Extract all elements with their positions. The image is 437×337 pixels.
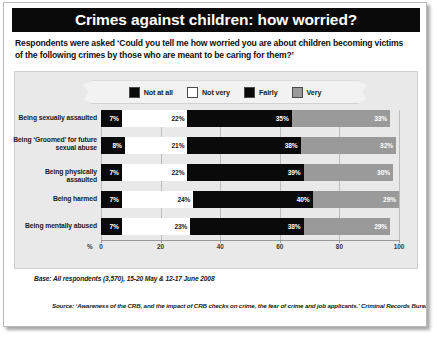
bar-segment-value: 7% bbox=[110, 115, 122, 122]
bar-category-label: Being sexually assaulted bbox=[13, 114, 97, 122]
legend-item-not-at-all: Not at all bbox=[129, 87, 173, 98]
chart-bar-row: Being harmed7%24%40%29% bbox=[101, 191, 399, 208]
slide-canvas: Crimes against children: how worried? Re… bbox=[3, 2, 427, 327]
axis-tick-label: 80 bbox=[336, 243, 343, 250]
bar-category-label-line: Being ‘Groomed’ for future bbox=[13, 136, 97, 144]
chart-bar-row: Being sexually assaulted7%22%35%33% bbox=[101, 110, 399, 127]
bar-segment: 40% bbox=[193, 191, 312, 208]
chart-legend: Not at all Not very Fairly Very bbox=[91, 80, 359, 104]
bar-segment-value: 29% bbox=[383, 196, 399, 203]
bar-segment: 7% bbox=[101, 191, 122, 208]
legend-swatch-icon bbox=[129, 87, 140, 98]
bar-segment-value: 23% bbox=[174, 223, 190, 230]
bar-segment: 22% bbox=[122, 110, 188, 127]
chart-bar-row: Being ‘Groomed’ for futuresexual abuse8%… bbox=[101, 137, 399, 154]
bar-segment: 29% bbox=[313, 191, 399, 208]
bar-segment-value: 21% bbox=[172, 142, 188, 149]
bar-segment-value: 38% bbox=[288, 223, 304, 230]
question-subtitle: Respondents were asked ‘Could you tell m… bbox=[15, 38, 419, 61]
bar-segment-value: 22% bbox=[172, 169, 188, 176]
bar-segment-value: 40% bbox=[297, 196, 313, 203]
gridline bbox=[399, 110, 400, 240]
bar-segment: 38% bbox=[190, 218, 303, 235]
bar-segment: 7% bbox=[101, 218, 122, 235]
legend-swatch-icon bbox=[187, 87, 198, 98]
subtitle-line-1: Respondents were asked ‘Could you tell m… bbox=[15, 38, 419, 50]
bar-segment-value: 7% bbox=[110, 223, 122, 230]
legend-swatch-icon bbox=[244, 87, 255, 98]
bar-segment: 38% bbox=[187, 137, 300, 154]
x-axis: 020406080100 bbox=[101, 240, 399, 254]
bar-segment-value: 7% bbox=[110, 196, 122, 203]
legend-swatch-icon bbox=[292, 87, 303, 98]
chart-panel: Not at all Not very Fairly Very Being se… bbox=[14, 71, 418, 269]
legend-label: Fairly bbox=[259, 88, 278, 97]
legend-label: Very bbox=[307, 88, 322, 97]
page-title: Crimes against children: how worried? bbox=[75, 11, 357, 29]
bar-segment: 32% bbox=[301, 137, 396, 154]
bar-segment: 30% bbox=[304, 164, 393, 181]
bar-segment: 23% bbox=[122, 218, 191, 235]
bar-segment-value: 38% bbox=[285, 142, 301, 149]
subtitle-line-2: of the following crimes by those who are… bbox=[15, 50, 419, 62]
bar-category-label: Being physically assaulted bbox=[13, 168, 97, 184]
bar-category-label: Being ‘Groomed’ for futuresexual abuse bbox=[13, 136, 97, 152]
legend-item-fairly: Fairly bbox=[244, 87, 278, 98]
bar-segment-value: 32% bbox=[380, 142, 396, 149]
bar-segment: 33% bbox=[292, 110, 390, 127]
bar-segment: 39% bbox=[187, 164, 303, 181]
bar-segment-value: 35% bbox=[276, 115, 292, 122]
bar-segment: 7% bbox=[101, 164, 122, 181]
bar-category-label-line: sexual abuse bbox=[13, 144, 97, 152]
axis-tick-label: 60 bbox=[276, 243, 283, 250]
title-banner: Crimes against children: how worried? bbox=[12, 8, 420, 32]
legend-item-very: Very bbox=[292, 87, 322, 98]
axis-tick-label: 40 bbox=[217, 243, 224, 250]
bar-category-label: Being mentally abused bbox=[13, 222, 97, 230]
bar-segment: 8% bbox=[101, 137, 125, 154]
bar-category-label-line: Being sexually assaulted bbox=[13, 114, 97, 122]
axis-tick-label: 100 bbox=[394, 243, 405, 250]
bar-segment-value: 24% bbox=[177, 196, 193, 203]
chart-bar-row: Being mentally abused7%23%38%29% bbox=[101, 218, 399, 235]
axis-tick-label: 0 bbox=[99, 243, 103, 250]
x-axis-unit-label: % bbox=[87, 243, 93, 250]
chart-bar-row: Being physically assaulted7%22%39%30% bbox=[101, 164, 399, 181]
bar-category-label-line: Being mentally abused bbox=[13, 222, 97, 230]
bar-category-label: Being harmed bbox=[13, 195, 97, 203]
source-note: Source: ‘Awareness of the CRB, and the i… bbox=[52, 302, 427, 309]
bar-segment: 22% bbox=[122, 164, 188, 181]
legend-label: Not at all bbox=[144, 88, 173, 97]
axis-line bbox=[101, 240, 399, 241]
legend-label: Not very bbox=[202, 88, 230, 97]
legend-item-not-very: Not very bbox=[187, 87, 230, 98]
bar-segment-value: 22% bbox=[172, 115, 188, 122]
bar-segment-value: 7% bbox=[110, 169, 122, 176]
base-note: Base: All respondents (3,570), 15-20 May… bbox=[34, 275, 215, 282]
bar-segment-value: 29% bbox=[374, 223, 390, 230]
axis-tick-label: 20 bbox=[157, 243, 164, 250]
bar-segment: 7% bbox=[101, 110, 122, 127]
bar-segment: 24% bbox=[122, 191, 194, 208]
plot-area: Being sexually assaulted7%22%35%33%Being… bbox=[101, 110, 399, 240]
bar-category-label-line: Being physically assaulted bbox=[13, 168, 97, 184]
bar-category-label-line: Being harmed bbox=[13, 195, 97, 203]
bar-segment: 21% bbox=[125, 137, 188, 154]
bar-segment: 29% bbox=[304, 218, 390, 235]
bar-segment-value: 30% bbox=[377, 169, 393, 176]
bar-segment: 35% bbox=[187, 110, 291, 127]
bar-segment-value: 8% bbox=[112, 142, 124, 149]
bar-segment-value: 39% bbox=[288, 169, 304, 176]
bar-segment-value: 33% bbox=[374, 115, 390, 122]
